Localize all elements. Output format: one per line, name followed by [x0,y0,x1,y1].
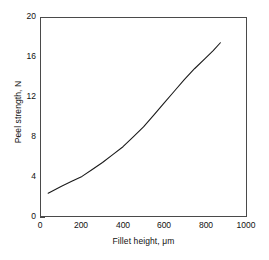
data-curve-svg [41,18,246,216]
x-tick-label: 0 [20,221,60,230]
x-tick-label: 800 [186,221,226,230]
peel-strength-chart-figure: 0 4 8 12 16 20 0 200 400 600 800 1000 Fi… [0,0,269,260]
y-tick-label: 20 [12,12,36,21]
y-tick-mark [40,217,45,218]
x-tick-label: 400 [103,221,143,230]
x-tick-label: 200 [61,221,101,230]
x-tick-label: 600 [144,221,184,230]
data-series-line [48,43,220,193]
plot-area [40,17,247,217]
x-axis-title: Fillet height, μm [40,236,247,246]
y-axis-title: Peel strength, N [13,42,23,182]
x-tick-label: 1000 [226,221,266,230]
y-tick-label: 0 [12,212,36,221]
